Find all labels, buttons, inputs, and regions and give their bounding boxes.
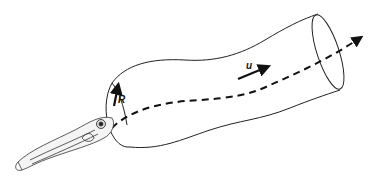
radius-label: R [118,94,125,105]
fish-larva [16,117,114,170]
flow-path-dashed [112,38,360,128]
velocity-label: u [246,60,252,71]
tube-cylinder [106,12,350,148]
diagram-canvas: R u [0,0,379,181]
velocity-arrow [238,67,267,79]
